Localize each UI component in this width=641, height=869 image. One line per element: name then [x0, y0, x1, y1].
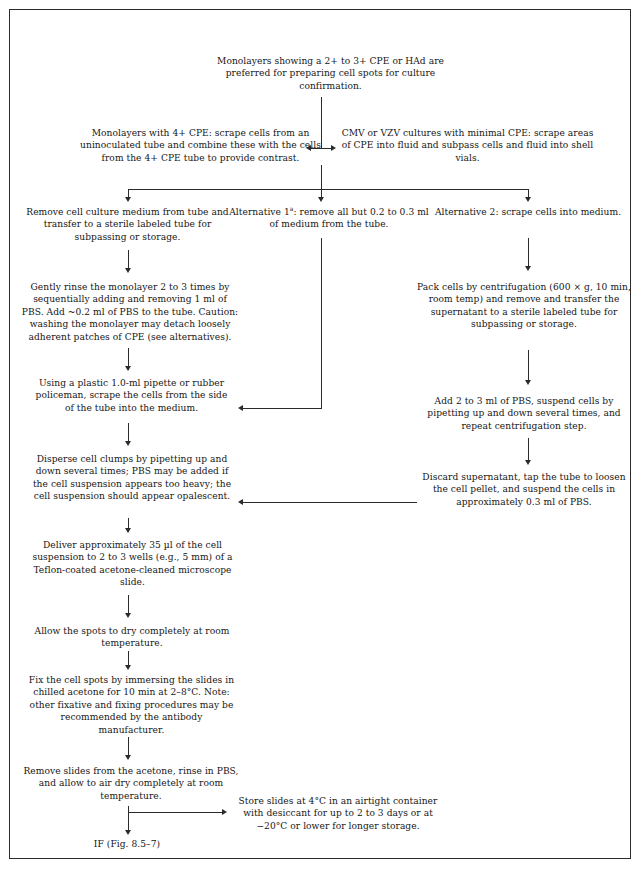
- node-scrape-cells: Using a plastic 1.0-ml pipette or rubber…: [34, 377, 229, 414]
- node-discard-supernatant: Discard supernatant, tap the tube to loo…: [419, 471, 629, 508]
- node-deliver-suspension: Deliver approximately 35 µl of the cell …: [30, 539, 235, 589]
- node-disperse-clumps: Disperse cell clumps by pipetting up and…: [32, 453, 232, 503]
- figure-page: Monolayers showing a 2+ to 3+ CPE or HAd…: [0, 0, 641, 869]
- node-rinse-monolayer-text: Gently rinse the monolayer 2 to 3 times …: [21, 281, 239, 343]
- node-end-if-text: IF (Fig. 8.5–7): [72, 838, 182, 850]
- node-alternative-2-text: Alternative 2: scrape cells into medium.: [428, 206, 628, 218]
- arrow-rinse-scrape: [125, 366, 131, 371]
- node-add-pbs-text: Add 2 to 3 ml of PBS, suspend cells by p…: [418, 395, 630, 432]
- arrow-alt1-to-scrape: [238, 405, 243, 411]
- connector-alt1-drop: [321, 238, 322, 408]
- figure-border: Monolayers showing a 2+ to 3+ CPE or HAd…: [9, 9, 631, 859]
- connector-spine-to-split: [321, 165, 322, 189]
- node-dry-spots-text: Allow the spots to dry completely at roo…: [32, 625, 232, 650]
- arrow-scrape-disperse: [125, 441, 131, 446]
- arrow-branch-right: [331, 145, 336, 151]
- node-alternative-2: Alternative 2: scrape cells into medium.: [428, 206, 628, 218]
- node-alternative-1-rest: : remove all but 0.2 to 0.3 ml of medium…: [269, 207, 428, 229]
- node-remove-medium: Remove cell culture medium from tube and…: [25, 206, 230, 243]
- arrow-split-col2: [318, 197, 324, 202]
- connector-scrape-disperse: [128, 423, 129, 443]
- arrow-fix-removeslides: [125, 755, 131, 760]
- arrow-pack-addpbs: [525, 380, 531, 385]
- node-branch-right-text: CMV or VZV cultures with minimal CPE: sc…: [340, 127, 595, 164]
- node-pack-cells-text: Pack cells by centrifugation (600 × g, 1…: [414, 281, 634, 331]
- node-store-slides: Store slides at 4°C in an airtight conta…: [229, 795, 447, 832]
- node-fix-spots-text: Fix the cell spots by immersing the slid…: [28, 674, 235, 736]
- node-store-slides-text: Store slides at 4°C in an airtight conta…: [229, 795, 447, 832]
- arrow-split-col1: [125, 197, 131, 202]
- node-remove-slides: Remove slides from the acetone, rinse in…: [22, 765, 240, 802]
- arrow-removeslides-if: [125, 830, 131, 835]
- arrow-addpbs-discard: [525, 460, 531, 465]
- arrow-dry-fix: [125, 665, 131, 670]
- node-start: Monolayers showing a 2+ to 3+ CPE or HAd…: [207, 55, 454, 92]
- node-discard-supernatant-text: Discard supernatant, tap the tube to loo…: [419, 471, 629, 508]
- connector-alt1-to-scrape: [242, 408, 322, 409]
- connector-removemedium-rinse: [128, 250, 129, 270]
- node-rinse-monolayer: Gently rinse the monolayer 2 to 3 times …: [21, 281, 239, 343]
- node-branch-right: CMV or VZV cultures with minimal CPE: sc…: [340, 127, 595, 164]
- arrow-removeslides-to-store: [222, 809, 227, 815]
- arrow-branch-left: [306, 145, 311, 151]
- node-dry-spots: Allow the spots to dry completely at roo…: [32, 625, 232, 650]
- node-add-pbs: Add 2 to 3 ml of PBS, suspend cells by p…: [418, 395, 630, 432]
- node-alternative-1-title: Alternative 1: [229, 207, 290, 217]
- connector-addpbs-discard: [528, 438, 529, 462]
- node-branch-left-text: Monolayers with 4+ CPE: scrape cells fro…: [78, 127, 323, 164]
- arrow-disperse-deliver: [125, 528, 131, 533]
- node-alternative-1: Alternative 1a: remove all but 0.2 to 0.…: [224, 206, 434, 231]
- connector-three-way-split: [128, 189, 528, 190]
- node-pack-cells: Pack cells by centrifugation (600 × g, 1…: [414, 281, 634, 331]
- connector-alt2-pack: [528, 238, 529, 268]
- connector-fix-removeslides: [128, 737, 129, 757]
- arrow-alt2-pack: [525, 266, 531, 271]
- connector-removeslides-to-store: [128, 812, 224, 813]
- node-deliver-suspension-text: Deliver approximately 35 µl of the cell …: [30, 539, 235, 589]
- connector-branch-spine: [321, 111, 322, 148]
- node-end-if: IF (Fig. 8.5–7): [72, 838, 182, 850]
- connector-discard-to-disperse: [242, 502, 417, 503]
- connector-deliver-dry: [128, 595, 129, 615]
- node-remove-medium-text: Remove cell culture medium from tube and…: [25, 206, 230, 243]
- arrow-deliver-dry: [125, 613, 131, 618]
- arrow-discard-to-disperse: [238, 499, 243, 505]
- arrow-removemedium-rinse: [125, 268, 131, 273]
- node-scrape-cells-text: Using a plastic 1.0-ml pipette or rubber…: [34, 377, 229, 414]
- node-branch-left: Monolayers with 4+ CPE: scrape cells fro…: [78, 127, 323, 164]
- connector-start-down: [321, 97, 322, 111]
- arrow-split-col3: [525, 197, 531, 202]
- connector-removeslides-down: [128, 806, 129, 832]
- node-remove-slides-text: Remove slides from the acetone, rinse in…: [22, 765, 240, 802]
- node-start-text: Monolayers showing a 2+ to 3+ CPE or HAd…: [207, 55, 454, 92]
- connector-pack-addpbs: [528, 350, 529, 382]
- node-fix-spots: Fix the cell spots by immersing the slid…: [28, 674, 235, 736]
- node-disperse-clumps-text: Disperse cell clumps by pipetting up and…: [32, 453, 232, 503]
